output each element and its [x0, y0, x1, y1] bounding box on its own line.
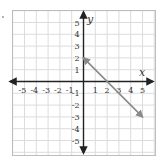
x-tick-label: -5: [19, 86, 27, 95]
x-tick-label: -2: [54, 86, 62, 95]
y-tick-label: -4: [72, 125, 80, 134]
y-tick-label: -1: [72, 89, 80, 98]
y-tick-label: -2: [72, 101, 80, 110]
y-tick-label: 4: [74, 30, 79, 39]
x-tick-label: -3: [42, 86, 50, 95]
axes: [10, 12, 153, 153]
y-tick-label: 1: [74, 66, 79, 75]
y-tick-label: 5: [74, 19, 79, 28]
y-tick-label: -3: [72, 113, 80, 122]
x-axis-label: x: [139, 66, 146, 79]
coordinate-plane: -5-4-3-2-11234554321-1-2-3-4-5 x y: [0, 0, 160, 164]
y-tick-label: 3: [74, 42, 79, 51]
x-tick-label: 1: [93, 86, 98, 95]
y-axis-label: y: [86, 13, 94, 26]
x-tick-label: 4: [128, 86, 133, 95]
y-tick-label: 2: [74, 54, 79, 63]
x-tick-label: 2: [105, 86, 110, 95]
x-tick-label: 5: [140, 86, 145, 95]
y-tick-label: -5: [72, 137, 80, 146]
x-tick-label: -4: [30, 86, 38, 95]
